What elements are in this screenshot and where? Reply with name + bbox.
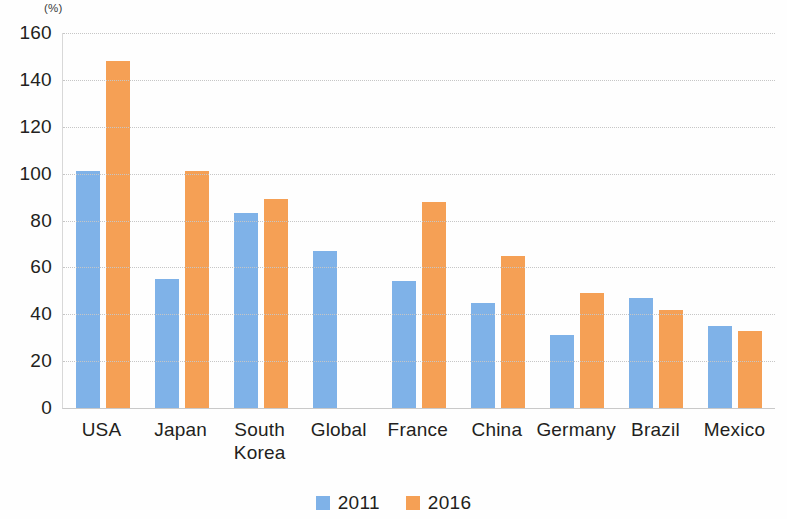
y-axis-tick-40: 40 <box>6 303 52 325</box>
x-axis-label: South Korea <box>220 418 299 464</box>
bar-2016-mexico[interactable] <box>738 331 762 408</box>
bar-2016-china[interactable] <box>501 256 525 408</box>
y-axis-tick-120: 120 <box>6 116 52 138</box>
y-axis-tick-100: 100 <box>6 163 52 185</box>
x-axis-labels: USAJapanSouth KoreaGlobalFranceChinaGerm… <box>62 418 774 464</box>
bar-2016-south-korea[interactable] <box>264 199 288 408</box>
bar-2011-france[interactable] <box>392 281 416 408</box>
bar-2011-mexico[interactable] <box>708 326 732 408</box>
bar-2011-usa[interactable] <box>76 171 100 408</box>
gridline-160 <box>63 33 775 34</box>
y-axis-unit-label: (%) <box>44 2 63 14</box>
bar-2016-brazil[interactable] <box>659 310 683 408</box>
legend-swatch-icon <box>406 496 420 510</box>
x-axis-label: Global <box>299 418 378 464</box>
bar-2011-south-korea[interactable] <box>234 213 258 408</box>
bar-2016-france[interactable] <box>422 202 446 408</box>
legend-swatch-icon <box>316 496 330 510</box>
x-axis-label: Mexico <box>695 418 774 464</box>
bar-2016-japan[interactable] <box>185 171 209 408</box>
y-axis-tick-0: 0 <box>6 397 52 419</box>
x-axis-label: Japan <box>141 418 220 464</box>
gridline-120 <box>63 127 775 128</box>
x-axis-label: Germany <box>536 418 616 464</box>
plot-area <box>62 33 775 409</box>
y-axis: 160140120100806040200 <box>0 33 52 408</box>
x-axis-label: USA <box>62 418 141 464</box>
bar-2016-germany[interactable] <box>580 293 604 408</box>
legend-label: 2011 <box>338 492 380 514</box>
bar-2011-china[interactable] <box>471 303 495 408</box>
y-axis-tick-140: 140 <box>6 69 52 91</box>
y-axis-tick-160: 160 <box>6 22 52 44</box>
y-axis-tick-60: 60 <box>6 256 52 278</box>
gridline-80 <box>63 221 775 222</box>
y-axis-tick-80: 80 <box>6 210 52 232</box>
bar-chart: (%) 160140120100806040200 USAJapanSouth … <box>0 0 787 519</box>
bar-2011-global[interactable] <box>313 251 337 408</box>
y-axis-tick-20: 20 <box>6 350 52 372</box>
x-axis-label: Brazil <box>616 418 695 464</box>
legend-item-2016[interactable]: 2016 <box>406 492 471 514</box>
bar-2011-germany[interactable] <box>550 335 574 408</box>
x-axis-label: France <box>378 418 457 464</box>
gridline-100 <box>63 174 775 175</box>
gridline-20 <box>63 361 775 362</box>
gridline-40 <box>63 314 775 315</box>
bar-2011-japan[interactable] <box>155 279 179 408</box>
legend-label: 2016 <box>428 492 471 514</box>
bar-2016-usa[interactable] <box>106 61 130 408</box>
gridline-60 <box>63 267 775 268</box>
gridline-140 <box>63 80 775 81</box>
gridline-0 <box>63 408 775 409</box>
x-axis-label: China <box>457 418 536 464</box>
chart-legend: 20112016 <box>0 492 787 514</box>
legend-item-2011[interactable]: 2011 <box>316 492 380 514</box>
